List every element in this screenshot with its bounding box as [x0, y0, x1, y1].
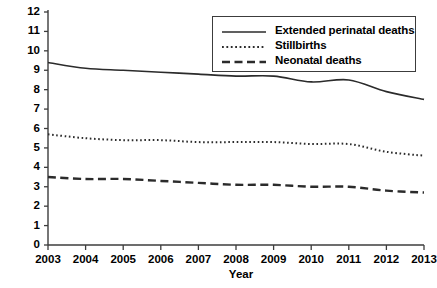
- legend-swatch-dashed: [221, 54, 267, 66]
- series-line: [48, 134, 424, 155]
- chart-legend: Extended perinatal deathsStillbirthsNeon…: [212, 16, 416, 72]
- legend-item: Neonatal deaths: [221, 52, 415, 67]
- legend-label: Neonatal deaths: [275, 54, 362, 66]
- legend-label: Extended perinatal deaths: [275, 24, 414, 36]
- legend-label: Stillbirths: [275, 39, 326, 51]
- series-line: [48, 177, 424, 193]
- legend-item: Stillbirths: [221, 37, 415, 52]
- legend-swatch-dotted: [221, 39, 267, 51]
- legend-swatch-solid: [221, 24, 267, 36]
- legend-item: Extended perinatal deaths: [221, 22, 415, 37]
- series-lines: [48, 62, 424, 192]
